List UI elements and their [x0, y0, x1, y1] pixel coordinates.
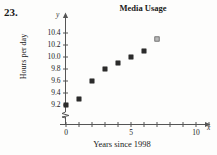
axes-group — [60, 13, 211, 128]
y-tick-label: 10.0 — [39, 52, 61, 61]
y-tick-label: 9.6 — [39, 76, 61, 85]
y-tick-label: 9.2 — [39, 100, 61, 109]
data-points — [64, 37, 159, 107]
x-tick-label: 5 — [124, 128, 138, 137]
y-tick-label: 9.4 — [39, 88, 61, 97]
y-tick-label: 10.4 — [39, 28, 61, 37]
y-tick-label: 9.8 — [39, 64, 61, 73]
axis-ticks — [63, 33, 209, 127]
x-tick-label: 10 — [189, 128, 203, 137]
scatter-plot — [0, 0, 217, 155]
figure-container: 23. Media Usage Hours per day Years sinc… — [0, 0, 217, 155]
y-tick-label: 10.2 — [39, 40, 61, 49]
x-tick-label: 0 — [59, 128, 73, 137]
